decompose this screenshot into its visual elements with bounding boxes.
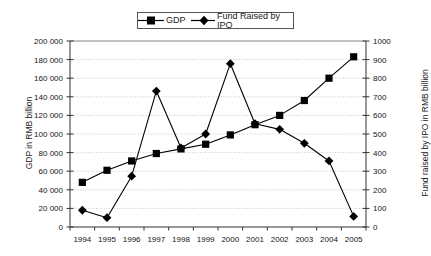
right-axis-tick-label: 700: [373, 93, 387, 102]
left-axis-tick-label: 200 000: [34, 37, 63, 46]
right-axis-tick-label: 0: [373, 223, 378, 232]
chart-container: GDP Fund Raised by IPO 020 00040 00060 0…: [0, 0, 431, 256]
right-axis-tick-label: 200: [373, 186, 387, 195]
right-axis-title: Fund raised by IPO in RMB billion: [420, 43, 430, 223]
data-point-marker-diamond[interactable]: [152, 87, 161, 96]
data-point-marker-diamond[interactable]: [325, 157, 334, 166]
series-line-gdp: [82, 57, 353, 183]
data-point-marker-diamond[interactable]: [349, 212, 358, 221]
left-axis-tick-label: 60 000: [39, 167, 64, 176]
series-line-fund-raised-by-ipo: [82, 64, 353, 218]
axis-ticks: [67, 41, 370, 231]
left-axis-tick-label: 0: [59, 223, 64, 232]
left-axis-tick-label: 160 000: [34, 74, 63, 83]
data-point-marker-diamond[interactable]: [127, 172, 136, 181]
left-axis-tick-label: 20 000: [39, 204, 64, 213]
x-axis-tick-label: 1998: [172, 235, 190, 244]
data-point-marker-diamond[interactable]: [300, 139, 309, 148]
data-point-marker-diamond[interactable]: [226, 59, 235, 68]
right-axis-tick-label: 900: [373, 56, 387, 65]
left-axis-title-text: GDP in RMB billion: [24, 97, 34, 170]
right-axis-tick-label: 600: [373, 111, 387, 120]
left-axis-tick-label: 80 000: [39, 149, 64, 158]
right-axis-tick-label: 1000: [373, 37, 391, 46]
x-axis-tick-label: 1996: [123, 235, 141, 244]
data-point-marker-square[interactable]: [202, 141, 209, 148]
x-axis-tick-label: 1994: [73, 235, 91, 244]
data-point-marker-diamond[interactable]: [78, 206, 87, 215]
x-axis-tick-label: 1997: [147, 235, 165, 244]
data-point-marker-square[interactable]: [153, 150, 160, 157]
left-axis-tick-label: 140 000: [34, 93, 63, 102]
left-axis-tick-label: 180 000: [34, 56, 63, 65]
right-axis-tick-label: 400: [373, 149, 387, 158]
data-point-marker-square[interactable]: [301, 97, 308, 104]
x-axis-tick-label: 2003: [295, 235, 313, 244]
data-point-marker-square[interactable]: [227, 131, 234, 138]
left-axis-title: GDP in RMB billion: [24, 58, 34, 208]
left-axis-tick-label: 40 000: [39, 186, 64, 195]
axis-tick-labels: 020 00040 00060 00080 000100 000120 0001…: [34, 37, 391, 244]
left-axis-tick-label: 100 000: [34, 130, 63, 139]
data-point-marker-diamond[interactable]: [201, 130, 210, 139]
right-axis-title-text: Fund raised by IPO in RMB billion: [420, 69, 430, 197]
x-axis-tick-label: 2005: [345, 235, 363, 244]
x-axis-tick-label: 2000: [221, 235, 239, 244]
right-axis-tick-label: 100: [373, 204, 387, 213]
data-point-marker-square[interactable]: [79, 179, 86, 186]
data-point-marker-square[interactable]: [325, 75, 332, 82]
data-point-marker-square[interactable]: [103, 167, 110, 174]
right-axis-tick-label: 300: [373, 167, 387, 176]
grid-lines: [70, 41, 366, 208]
x-axis-tick-label: 1999: [197, 235, 215, 244]
right-axis-tick-label: 800: [373, 74, 387, 83]
data-point-marker-square[interactable]: [350, 53, 357, 60]
x-axis-tick-label: 2001: [246, 235, 264, 244]
left-axis-tick-label: 120 000: [34, 111, 63, 120]
x-axis-tick-label: 2002: [271, 235, 289, 244]
chart-plot: 020 00040 00060 00080 000100 000120 0001…: [0, 0, 431, 256]
x-axis-tick-label: 1995: [98, 235, 116, 244]
right-axis-tick-label: 500: [373, 130, 387, 139]
data-point-marker-diamond[interactable]: [275, 125, 284, 134]
data-point-marker-square[interactable]: [276, 112, 283, 119]
data-point-marker-diamond[interactable]: [103, 213, 112, 222]
data-point-marker-square[interactable]: [128, 157, 135, 164]
x-axis-tick-label: 2004: [320, 235, 338, 244]
